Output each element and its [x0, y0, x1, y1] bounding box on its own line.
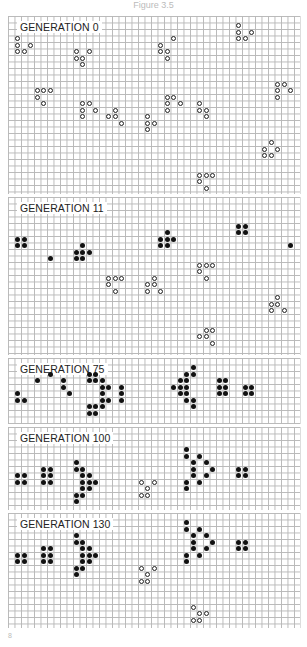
live-cell-filled	[191, 533, 196, 538]
live-cell-filled	[87, 473, 92, 478]
live-cell-open	[236, 23, 241, 28]
live-cell-open	[269, 302, 274, 307]
live-cell-filled	[184, 480, 189, 485]
live-cell-filled	[87, 553, 92, 558]
live-cell-filled	[197, 480, 202, 485]
live-cell-filled	[184, 378, 189, 383]
live-cell-open	[165, 108, 170, 113]
generation-label: GENERATION 0	[17, 21, 102, 33]
live-cell-filled	[15, 398, 20, 403]
live-cell-open	[191, 618, 196, 623]
live-cell-filled	[249, 391, 254, 396]
generation-panel: GENERATION 130	[8, 513, 301, 628]
live-cell-open	[197, 263, 202, 268]
live-cell-open	[204, 611, 209, 616]
live-cell-open	[80, 101, 85, 106]
live-cell-filled	[223, 391, 228, 396]
live-cell-open	[145, 127, 150, 132]
live-cell-open	[204, 334, 209, 339]
live-cell-filled	[80, 540, 85, 545]
live-cell-filled	[184, 454, 189, 459]
live-cell-filled	[22, 559, 27, 564]
live-cell-open	[275, 302, 280, 307]
live-cell-filled	[93, 553, 98, 558]
live-cell-filled	[93, 404, 98, 409]
live-cell-filled	[165, 243, 170, 248]
live-cell-filled	[80, 473, 85, 478]
live-cell-filled	[93, 378, 98, 383]
live-cell-filled	[22, 553, 27, 558]
live-cell-filled	[204, 533, 209, 538]
live-cell-filled	[191, 365, 196, 370]
live-cell-filled	[87, 372, 92, 377]
live-cell-open	[158, 289, 163, 294]
live-cell-filled	[171, 237, 176, 242]
live-cell-filled	[80, 553, 85, 558]
live-cell-open	[152, 282, 157, 287]
live-cell-open	[269, 308, 274, 313]
live-cell-open	[87, 49, 92, 54]
live-cell-filled	[178, 391, 183, 396]
live-cell-open	[269, 153, 274, 158]
live-cell-open	[262, 153, 267, 158]
live-cell-open	[15, 49, 20, 54]
live-cell-filled	[35, 378, 40, 383]
live-cell-open	[165, 95, 170, 100]
live-cell-open	[236, 30, 241, 35]
live-cell-filled	[236, 473, 241, 478]
live-cell-filled	[191, 404, 196, 409]
live-cell-open	[204, 328, 209, 333]
live-cell-filled	[158, 243, 163, 248]
live-cell-filled	[41, 467, 46, 472]
live-cell-filled	[204, 546, 209, 551]
live-cell-filled	[236, 230, 241, 235]
live-cell-open	[275, 88, 280, 93]
live-cell-filled	[15, 243, 20, 248]
live-cell-filled	[223, 378, 228, 383]
live-cell-filled	[61, 385, 66, 390]
live-cell-open	[80, 62, 85, 67]
live-cell-open	[15, 36, 20, 41]
live-cell-open	[48, 88, 53, 93]
live-cell-filled	[22, 237, 27, 242]
live-cell-filled	[15, 559, 20, 564]
live-cell-filled	[191, 546, 196, 551]
live-cell-open	[145, 282, 150, 287]
live-cell-filled	[165, 230, 170, 235]
live-cell-filled	[87, 250, 92, 255]
live-cell-open	[106, 282, 111, 287]
live-cell-filled	[243, 473, 248, 478]
live-cell-open	[197, 611, 202, 616]
live-cell-filled	[48, 553, 53, 558]
live-cell-open	[35, 95, 40, 100]
live-cell-filled	[184, 486, 189, 491]
live-cell-filled	[41, 473, 46, 478]
live-cell-filled	[100, 391, 105, 396]
live-cell-open	[210, 263, 215, 268]
live-cell-filled	[191, 398, 196, 403]
live-cell-filled	[184, 372, 189, 377]
live-cell-filled	[236, 224, 241, 229]
live-cell-filled	[87, 480, 92, 485]
live-cell-open	[282, 308, 287, 313]
live-cell-filled	[191, 467, 196, 472]
generation-label: GENERATION 130	[17, 518, 113, 530]
live-cell-filled	[80, 493, 85, 498]
live-cell-filled	[22, 243, 27, 248]
live-cell-open	[210, 341, 215, 346]
live-cell-filled	[210, 467, 215, 472]
live-cell-filled	[243, 230, 248, 235]
live-cell-filled	[74, 460, 79, 465]
live-cell-open	[191, 605, 196, 610]
generation-label: GENERATION 11	[17, 202, 107, 214]
live-cell-filled	[87, 486, 92, 491]
live-cell-filled	[22, 398, 27, 403]
generation-panel: GENERATION 11	[8, 197, 301, 355]
live-cell-filled	[87, 378, 92, 383]
live-cell-open	[204, 263, 209, 268]
live-cell-filled	[41, 546, 46, 551]
live-cell-filled	[93, 480, 98, 485]
live-cell-filled	[74, 250, 79, 255]
live-cell-open	[275, 147, 280, 152]
live-cell-filled	[243, 385, 248, 390]
